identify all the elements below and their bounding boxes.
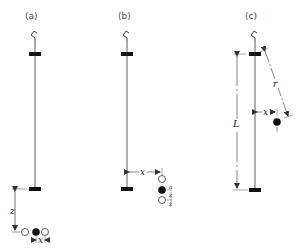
open-bob bbox=[159, 176, 166, 183]
open-bob bbox=[22, 229, 29, 236]
panel-c: (c) L r x bbox=[232, 11, 293, 192]
extension-line bbox=[284, 115, 293, 118]
extension-line bbox=[260, 48, 268, 52]
offset-label-z-upper: z bbox=[168, 191, 173, 198]
L-dimension-label: L bbox=[232, 118, 240, 129]
open-bob bbox=[159, 197, 166, 204]
panel-a-label: (a) bbox=[25, 11, 38, 21]
panel-b: (b) x a z z bbox=[118, 11, 173, 207]
hook-icon bbox=[31, 31, 37, 43]
r-dimension-label: r bbox=[273, 79, 278, 89]
z-dimension-label: z bbox=[9, 206, 15, 216]
x-dimension-label: x bbox=[38, 235, 43, 245]
panel-b-label: (b) bbox=[118, 11, 131, 21]
hook-icon bbox=[123, 31, 129, 43]
bottom-bar bbox=[121, 187, 133, 191]
filled-bob bbox=[273, 118, 281, 126]
panel-a: (a) z x bbox=[9, 11, 50, 245]
x-dimension-label: x bbox=[140, 167, 145, 177]
hook-icon bbox=[251, 31, 257, 43]
offset-label-z-lower: z bbox=[168, 200, 173, 207]
panel-c-label: (c) bbox=[245, 11, 257, 21]
x-dimension-label: x bbox=[263, 107, 268, 117]
offset-label-a: a bbox=[169, 183, 173, 190]
pendulum-diagram: (a) z x (b) x bbox=[0, 0, 302, 248]
filled-bob bbox=[158, 186, 166, 194]
bottom-bar bbox=[29, 187, 41, 191]
bottom-bar bbox=[249, 188, 261, 192]
